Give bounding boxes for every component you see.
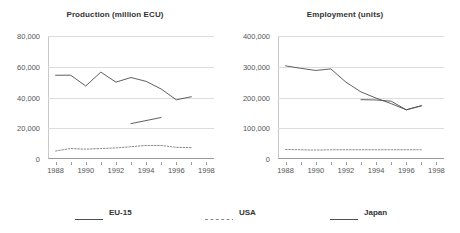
- x-axis-tick-mark: [376, 162, 377, 165]
- legend-label: Japan: [364, 208, 387, 217]
- legend-label: USA: [239, 208, 256, 217]
- y-axis-tick-label: 300,000: [243, 62, 270, 71]
- y-axis-labels-employment: 0100,000200,000300,000400,000: [230, 36, 274, 159]
- series-layer-employment: [278, 36, 444, 159]
- x-axis-tick-label: 1992: [108, 166, 125, 175]
- y-axis-tick-label: 400,000: [243, 32, 270, 41]
- x-axis-tick-mark: [86, 162, 87, 165]
- x-axis-tick-mark: [206, 162, 207, 165]
- x-axis-tick-mark: [286, 162, 287, 165]
- x-axis-tick-mark: [176, 162, 177, 165]
- x-axis-tick-label: 1994: [368, 166, 385, 175]
- y-axis-tick-label: 0: [266, 155, 270, 164]
- x-axis-tick-label: 1990: [77, 166, 94, 175]
- x-axis-tick-label: 1996: [168, 166, 185, 175]
- series-line-usa: [56, 145, 192, 151]
- x-axis-tick-mark: [116, 162, 117, 165]
- x-axis-tick-mark: [391, 162, 392, 165]
- legend-swatch-line-icon: [330, 209, 358, 216]
- legend-swatch-dashed-line-icon: [205, 209, 233, 216]
- y-axis-tick-label: 200,000: [243, 93, 270, 102]
- y-axis-tick-label: 80,000: [17, 32, 40, 41]
- x-axis-tick-mark: [161, 162, 162, 165]
- series-line-usa: [286, 149, 422, 150]
- series-line-japan: [131, 117, 161, 123]
- legend-label: EU-15: [109, 208, 132, 217]
- chart-legend: EU-15 USA Japan: [0, 196, 460, 233]
- x-axis-tick-mark: [131, 162, 132, 165]
- x-axis-tick-mark: [421, 162, 422, 165]
- y-axis-tick-label: 100,000: [243, 124, 270, 133]
- x-axis-tick-mark: [331, 162, 332, 165]
- y-axis-labels-production: 020,00040,00060,00080,000: [0, 36, 44, 159]
- x-axis-tick-mark: [301, 162, 302, 165]
- legend-swatch-line-icon: [75, 209, 103, 216]
- x-axis-tick-label: 1990: [307, 166, 324, 175]
- series-line-eu-15: [56, 72, 192, 100]
- y-axis-tick-label: 0: [36, 155, 40, 164]
- chart-panel-employment: Employment (units) 0100,000200,000300,00…: [230, 0, 460, 195]
- chart-title-employment: Employment (units): [230, 10, 460, 19]
- x-axis-tick-mark: [191, 162, 192, 165]
- series-line-eu-15: [286, 66, 422, 110]
- x-axis-tick-mark: [361, 162, 362, 165]
- chart-sheet: Production (million ECU) 020,00040,00060…: [0, 0, 460, 233]
- x-axis-tick-label: 1998: [428, 166, 445, 175]
- x-axis-tick-label: 1988: [277, 166, 294, 175]
- x-axis-tick-mark: [346, 162, 347, 165]
- series-line-japan: [361, 100, 421, 110]
- series-layer-production: [48, 36, 214, 159]
- chart-title-production: Production (million ECU): [0, 10, 230, 19]
- x-axis-tick-label: 1994: [138, 166, 155, 175]
- x-axis-tick-mark: [406, 162, 407, 165]
- chart-panel-production: Production (million ECU) 020,00040,00060…: [0, 0, 230, 195]
- legend-item-eu-15: EU-15: [75, 208, 132, 217]
- y-axis-tick-label: 60,000: [17, 62, 40, 71]
- plot-area-employment: [278, 36, 444, 159]
- x-axis-tick-mark: [436, 162, 437, 165]
- x-axis-labels-production: 198819901992199419961998: [48, 162, 214, 180]
- legend-item-usa: USA: [205, 208, 256, 217]
- legend-item-japan: Japan: [330, 208, 387, 217]
- y-axis-tick-label: 20,000: [17, 124, 40, 133]
- x-axis-tick-label: 1998: [198, 166, 215, 175]
- y-axis-tick-label: 40,000: [17, 93, 40, 102]
- x-axis-labels-employment: 198819901992199419961998: [278, 162, 444, 180]
- x-axis-tick-label: 1996: [398, 166, 415, 175]
- x-axis-tick-mark: [56, 162, 57, 165]
- x-axis-tick-label: 1988: [47, 166, 64, 175]
- x-axis-tick-mark: [101, 162, 102, 165]
- x-axis-tick-mark: [71, 162, 72, 165]
- x-axis-tick-mark: [146, 162, 147, 165]
- x-axis-tick-mark: [316, 162, 317, 165]
- x-axis-tick-label: 1992: [338, 166, 355, 175]
- plot-area-production: [48, 36, 214, 159]
